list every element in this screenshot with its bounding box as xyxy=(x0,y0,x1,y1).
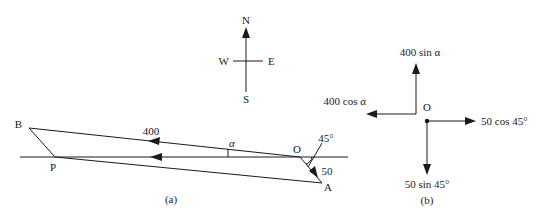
line-BO xyxy=(29,128,300,157)
label-50-sin: 50 sin 45° xyxy=(405,178,450,190)
label-50-cos: 50 cos 45° xyxy=(481,115,528,127)
arrow-down-icon xyxy=(423,164,431,175)
origin-O-label: O xyxy=(423,101,431,113)
panel-b-caption: (b) xyxy=(421,194,434,207)
label-400-sin: 400 sin α xyxy=(400,46,441,58)
arrow-left-icon xyxy=(366,110,377,118)
current-50-label: 50 xyxy=(322,165,334,177)
arrow-right-icon xyxy=(465,117,476,125)
point-O-label: O xyxy=(293,143,301,155)
panel-a: B P O A 400 50 α 45° (a) xyxy=(15,118,348,206)
compass-west-label: W xyxy=(219,55,230,67)
angle-alpha-label: α xyxy=(229,137,235,149)
velocity-400-label: 400 xyxy=(143,125,160,137)
arrow-400-icon xyxy=(148,137,160,145)
panel-a-caption: (a) xyxy=(165,193,178,206)
point-B-label: B xyxy=(15,118,22,130)
compass: N S E W xyxy=(219,14,275,105)
angle-45-pointer xyxy=(308,143,322,167)
diagram-canvas: N S E W B P O A 400 50 α 45° (a) xyxy=(0,0,539,218)
compass-east-label: E xyxy=(268,55,275,67)
angle-45-arc xyxy=(306,157,312,164)
angle-45-label: 45° xyxy=(318,132,333,144)
panel-b: O 400 sin α 400 cos α 50 cos 45° 50 sin … xyxy=(324,46,528,207)
point-P-label: P xyxy=(50,161,56,173)
north-arrow-icon xyxy=(242,27,250,38)
arrow-resultant-icon xyxy=(150,153,162,161)
line-PA xyxy=(55,157,322,183)
arrow-50-icon xyxy=(309,166,318,178)
label-400-cos: 400 cos α xyxy=(324,95,367,107)
line-BP xyxy=(29,128,55,157)
arrow-up-icon xyxy=(412,63,420,74)
compass-south-label: S xyxy=(243,93,249,105)
point-A-label: A xyxy=(324,181,332,193)
compass-north-label: N xyxy=(242,14,250,26)
